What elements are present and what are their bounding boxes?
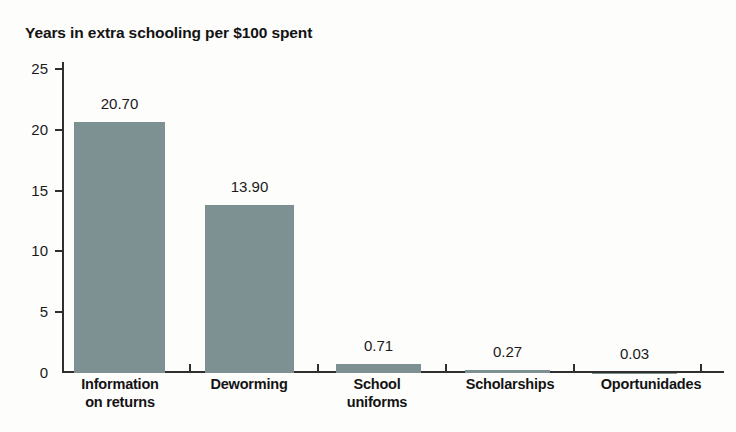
bar-chart-figure: Years in extra schooling per $100 spent … <box>0 0 736 432</box>
category-label-line: Deworming <box>193 376 305 394</box>
bar-deworming <box>205 205 294 373</box>
category-label-line: Scholarships <box>447 376 573 394</box>
bar-value-label: 0.27 <box>465 343 550 360</box>
x-axis-category-label-school-uniforms: School uniforms <box>323 376 431 411</box>
bar-information-on-returns <box>74 122 165 373</box>
bar-value-label: 0.03 <box>592 345 677 362</box>
bar-school-uniforms <box>336 364 421 373</box>
category-label-line: Oportunidades <box>576 376 726 394</box>
category-label-line: School <box>323 376 431 394</box>
bar-value-label: 0.71 <box>336 337 421 354</box>
bar-value-label: 13.90 <box>205 178 294 195</box>
bar-value-label: 20.70 <box>74 95 165 112</box>
category-label-line: on returns <box>60 394 180 412</box>
category-label-line: uniforms <box>323 394 431 412</box>
x-axis-category-label-scholarships: Scholarships <box>447 376 573 394</box>
bar-scholarships <box>465 370 550 373</box>
bars-layer <box>0 0 736 373</box>
category-label-line: Information <box>60 376 180 394</box>
x-axis-category-label-information-on-returns: Information on returns <box>60 376 180 411</box>
x-axis-category-label-oportunidades: Oportunidades <box>576 376 726 394</box>
x-axis-category-label-deworming: Deworming <box>193 376 305 394</box>
